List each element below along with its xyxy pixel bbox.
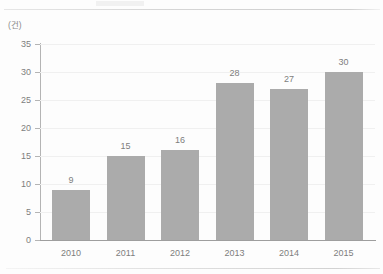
x-axis-tick-label: 2014 <box>279 248 299 258</box>
y-axis-tick-label: 0 <box>26 235 40 245</box>
y-axis-tick-label: 35 <box>21 39 40 49</box>
bar-value-label: 15 <box>120 141 130 151</box>
y-axis-tick-label: 10 <box>21 179 40 189</box>
bar-value-label: 16 <box>175 135 185 145</box>
bar-value-label: 30 <box>338 57 348 67</box>
y-axis-tick-label: 15 <box>21 151 40 161</box>
y-axis-unit-label: (건) <box>8 18 22 30</box>
bar <box>325 72 363 240</box>
bar-value-label: 9 <box>68 175 73 185</box>
y-axis-tick-label: 30 <box>21 67 40 77</box>
bar-value-label: 27 <box>284 74 294 84</box>
bar <box>52 190 90 240</box>
y-axis-tick-label: 5 <box>26 207 40 217</box>
bar <box>216 83 254 240</box>
bar-value-label: 28 <box>229 68 239 78</box>
y-axis-tick-label: 20 <box>21 123 40 133</box>
x-axis-tick-label: 2010 <box>61 248 81 258</box>
y-axis-tick-label: 25 <box>21 95 40 105</box>
bar <box>270 89 308 240</box>
bar-chart: (건) 05101520253035 91516282730 201020112… <box>0 0 383 274</box>
bar <box>107 156 145 240</box>
bar <box>161 150 199 240</box>
x-axis-line <box>40 240 376 241</box>
x-axis-tick-label: 2015 <box>333 248 353 258</box>
x-axis-tick-label: 2012 <box>170 248 190 258</box>
x-axis-tick-label: 2011 <box>116 248 135 258</box>
x-axis-tick-label: 2013 <box>224 248 244 258</box>
plot-area <box>40 44 375 240</box>
